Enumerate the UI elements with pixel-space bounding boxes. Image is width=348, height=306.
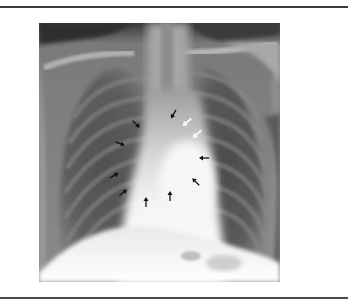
xray-svg bbox=[39, 23, 280, 282]
mediastinal-mass bbox=[159, 141, 215, 225]
chest-xray-image: Posteroanterior chest X-ray with arrows … bbox=[39, 23, 280, 282]
bottom-border-rule bbox=[0, 297, 348, 299]
top-border-rule bbox=[0, 6, 348, 8]
gastric-bubble bbox=[181, 251, 201, 261]
